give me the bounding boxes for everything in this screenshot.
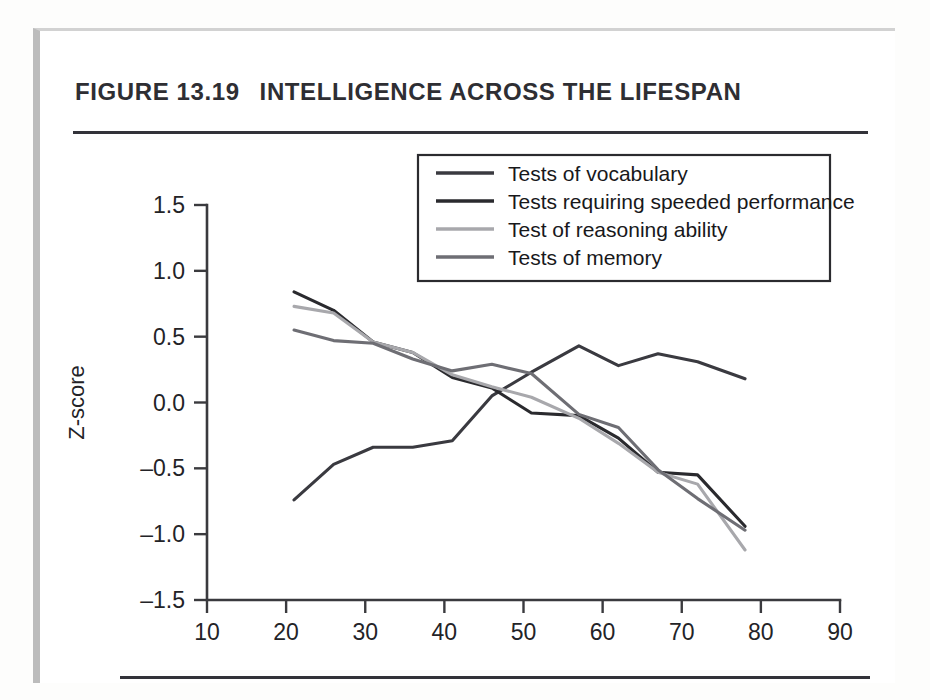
line-chart: 1.51.00.50.0–0.5–1.0–1.51020304050607080… xyxy=(40,141,902,661)
x-tick-label: 50 xyxy=(511,619,537,645)
y-tick-label: –1.0 xyxy=(140,521,185,547)
x-tick-label: 20 xyxy=(273,619,299,645)
figure-bottom-rule xyxy=(120,676,870,679)
x-tick-label: 80 xyxy=(748,619,774,645)
figure-number: FIGURE 13.19 xyxy=(75,78,240,105)
y-tick-label: –1.5 xyxy=(140,587,185,613)
title-divider-rule xyxy=(73,131,868,134)
chart-area: 1.51.00.50.0–0.5–1.0–1.51020304050607080… xyxy=(40,141,902,661)
series-line-tests-of-memory xyxy=(294,330,745,530)
x-tick-label: 70 xyxy=(669,619,695,645)
legend-label: Tests requiring speeded performance xyxy=(508,190,855,213)
x-tick-label: 30 xyxy=(352,619,378,645)
legend-label: Tests of vocabulary xyxy=(508,162,688,185)
y-tick-label: 1.0 xyxy=(153,258,185,284)
chart-series-lines xyxy=(294,292,745,550)
chart-legend: Tests of vocabularyTests requiring speed… xyxy=(418,155,855,281)
y-tick-label: –0.5 xyxy=(140,455,185,481)
legend-label: Tests of memory xyxy=(508,246,663,269)
x-tick-label: 90 xyxy=(827,619,853,645)
x-tick-label: 10 xyxy=(194,619,220,645)
figure-frame: FIGURE 13.19INTELLIGENCE ACROSS THE LIFE… xyxy=(33,28,895,683)
x-tick-label: 40 xyxy=(432,619,458,645)
y-tick-label: 1.5 xyxy=(153,192,185,218)
y-axis-title: Z-score xyxy=(64,365,89,440)
y-tick-label: 0.5 xyxy=(153,324,185,350)
legend-label: Test of reasoning ability xyxy=(508,218,728,241)
series-line-tests-requiring-speeded-performance xyxy=(294,292,745,526)
figure-title-text: INTELLIGENCE ACROSS THE LIFESPAN xyxy=(260,78,742,105)
y-tick-label: 0.0 xyxy=(153,390,185,416)
figure-title: FIGURE 13.19INTELLIGENCE ACROSS THE LIFE… xyxy=(75,78,742,106)
x-tick-label: 60 xyxy=(590,619,616,645)
